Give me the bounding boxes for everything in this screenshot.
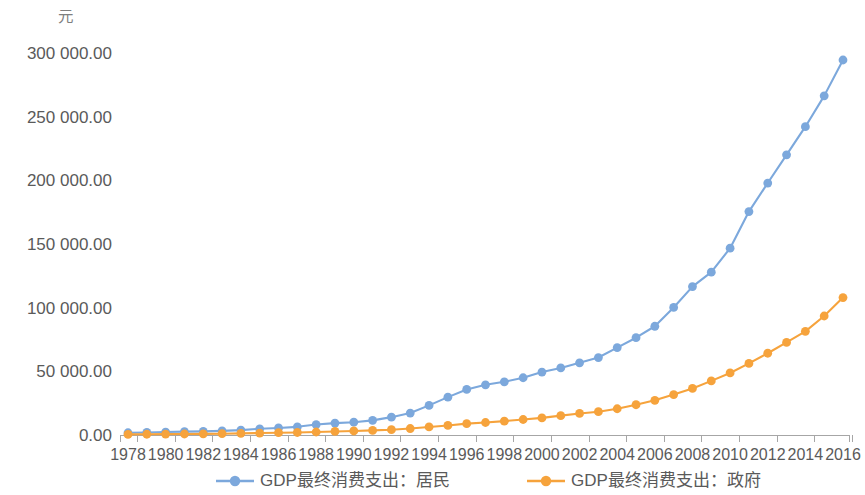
series-data-point — [688, 384, 697, 393]
series-data-point — [726, 369, 735, 378]
series-data-point — [801, 122, 810, 131]
series-data-point — [124, 430, 133, 439]
data-series — [124, 293, 848, 439]
x-axis-tick-label: 2004 — [599, 446, 635, 463]
y-axis-tick-label: 0.00 — [79, 426, 112, 445]
series-data-point — [763, 179, 772, 188]
x-axis-tick-label: 1986 — [261, 446, 297, 463]
legend-item[interactable]: GDP最终消费支出：居民 — [216, 471, 450, 490]
y-axis-tick-label: 100 000.00 — [27, 299, 112, 318]
y-axis-tick-label: 250 000.00 — [27, 108, 112, 127]
x-axis-tick-label: 1998 — [487, 446, 523, 463]
series-data-point — [349, 418, 358, 427]
y-axis-unit-group: 元 — [58, 8, 74, 25]
series-data-point — [707, 268, 716, 277]
x-axis-line-group — [120, 435, 850, 442]
series-data-point — [500, 417, 509, 426]
series-data-point — [575, 358, 584, 367]
legend-item[interactable]: GDP最终消费支出：政府 — [527, 471, 761, 490]
series-data-point — [726, 244, 735, 253]
series-data-point — [782, 150, 791, 159]
x-axis-tick-label: 2016 — [825, 446, 861, 463]
legend-item-label: GDP最终消费支出：政府 — [571, 471, 761, 490]
series-data-point — [538, 414, 547, 423]
x-axis-tick-label: 1990 — [336, 446, 372, 463]
series-data-point — [613, 404, 622, 413]
series-data-point — [650, 322, 659, 331]
series-data-point — [519, 373, 528, 382]
series-data-point — [199, 429, 208, 438]
series-data-point — [406, 409, 415, 418]
legend-marker-icon — [230, 476, 240, 486]
series-data-point — [594, 407, 603, 416]
series-data-point — [481, 380, 490, 389]
series-data-point — [632, 400, 641, 409]
x-axis-tick-label: 2002 — [562, 446, 598, 463]
series-data-point — [425, 401, 434, 410]
series-data-point — [331, 419, 340, 428]
data-series — [124, 56, 848, 438]
line-chart-figure: 元 0.0050 000.00100 000.00150 000.00200 0… — [0, 0, 865, 495]
series-data-point — [255, 429, 264, 438]
series-data-point — [669, 390, 678, 399]
series-data-point — [575, 409, 584, 418]
legend-marker-icon — [541, 476, 551, 486]
series-line — [128, 298, 843, 435]
x-axis-tick-label: 2006 — [637, 446, 673, 463]
x-axis-tick-label: 2000 — [524, 446, 560, 463]
series-data-point — [632, 333, 641, 342]
series-data-point — [387, 413, 396, 422]
series-data-point — [236, 429, 245, 438]
series-data-point — [481, 418, 490, 427]
series-data-point — [820, 91, 829, 100]
x-axis-tick-label: 2014 — [788, 446, 824, 463]
series-data-point — [594, 353, 603, 362]
x-axis-tick-label: 2012 — [750, 446, 786, 463]
series-data-point — [425, 423, 434, 432]
series-data-point — [293, 428, 302, 437]
x-axis-tick-labels: 1978198019821984198619881990199219941996… — [110, 435, 861, 463]
series-data-point — [763, 349, 772, 358]
series-data-point — [500, 377, 509, 386]
series-data-point — [387, 425, 396, 434]
series-data-point — [839, 56, 848, 65]
series-data-point — [650, 396, 659, 405]
series-data-point — [745, 359, 754, 368]
series-data-point — [218, 429, 227, 438]
series-data-point — [443, 421, 452, 430]
x-axis-tick-label: 2010 — [712, 446, 748, 463]
series-data-point — [556, 411, 565, 420]
series-data-point — [368, 416, 377, 425]
series-data-point — [180, 430, 189, 439]
series-data-point — [669, 303, 678, 312]
y-axis-tick-labels: 0.0050 000.00100 000.00150 000.00200 000… — [27, 44, 112, 445]
series-data-point — [839, 293, 848, 302]
x-axis-tick-label: 1982 — [185, 446, 221, 463]
series-data-point — [161, 430, 170, 439]
series-data-point — [707, 376, 716, 385]
series-data-point — [368, 426, 377, 435]
series-data-point — [406, 424, 415, 433]
x-axis-tick-label: 1994 — [411, 446, 447, 463]
series-data-point — [801, 327, 810, 336]
series-data-point — [556, 364, 565, 373]
y-axis-tick-label: 200 000.00 — [27, 171, 112, 190]
series-data-point — [745, 207, 754, 216]
series-data-point — [349, 427, 358, 436]
series-data-point — [519, 415, 528, 424]
series-data-point — [688, 282, 697, 291]
x-axis-tick-label: 1992 — [374, 446, 410, 463]
y-axis-tick-label: 300 000.00 — [27, 44, 112, 63]
series-line — [128, 60, 843, 433]
x-axis-tick-label: 1988 — [298, 446, 334, 463]
series-data-point — [782, 338, 791, 347]
x-axis-tick-label: 1978 — [110, 446, 146, 463]
series-data-point — [312, 428, 321, 437]
y-axis-tick-label: 50 000.00 — [36, 362, 112, 381]
series-data-point — [538, 368, 547, 377]
legend-item-label: GDP最终消费支出：居民 — [260, 471, 450, 490]
x-axis-tick-label: 1984 — [223, 446, 259, 463]
y-axis-unit-label: 元 — [58, 8, 74, 25]
series-data-point — [274, 428, 283, 437]
series-data-point — [820, 312, 829, 321]
